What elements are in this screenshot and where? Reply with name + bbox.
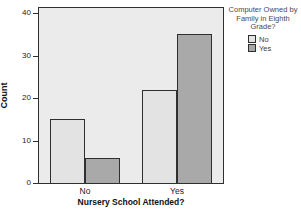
legend-swatch-icon [248, 35, 256, 43]
y-tick-label: 10 [9, 136, 31, 146]
bar-yes-no [142, 90, 177, 183]
x-axis-title: Nursery School Attended? [38, 197, 224, 209]
plot-area [38, 7, 224, 184]
legend-title: Computer Owned byFamily in EighthGrade? [226, 6, 300, 32]
legend-item-yes: Yes [248, 44, 300, 53]
legend-title-line: Grade? [226, 23, 300, 32]
y-tick-label: 20 [9, 93, 31, 103]
x-category-label: No [65, 186, 105, 196]
legend-items: NoYes [226, 35, 300, 53]
legend-item-label: No [259, 35, 269, 44]
bar-no-no [50, 119, 85, 183]
bar-chart-figure: Count 010203040 NoYes Nursery School Att… [0, 0, 301, 215]
y-tick-mark [33, 141, 38, 142]
legend-swatch-icon [248, 44, 256, 52]
y-tick-mark [33, 13, 38, 14]
legend: Computer Owned byFamily in EighthGrade? … [226, 6, 300, 53]
y-tick-label: 0 [9, 178, 31, 188]
x-category-label: Yes [157, 186, 197, 196]
y-tick-label: 30 [9, 51, 31, 61]
y-tick-mark [33, 183, 38, 184]
legend-item-no: No [248, 35, 300, 44]
bar-yes-yes [177, 34, 212, 183]
y-tick-mark [33, 98, 38, 99]
y-tick-mark [33, 56, 38, 57]
y-tick-label: 40 [9, 8, 31, 18]
bar-no-yes [85, 158, 120, 183]
legend-item-label: Yes [259, 44, 271, 53]
